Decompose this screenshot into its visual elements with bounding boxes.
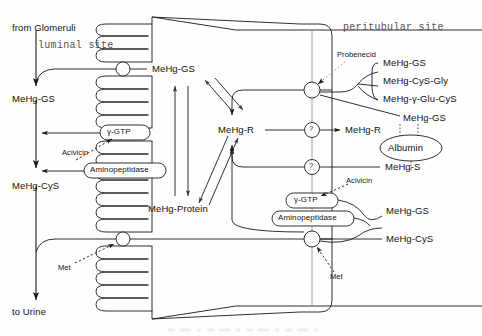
label-peritubular-acivicin: Acivicin bbox=[346, 176, 372, 185]
peritubular-recycle-loop-top bbox=[232, 90, 304, 115]
label-mehg-r-intracellular: MeHg-R bbox=[218, 124, 254, 135]
label-export-mehg-gs: MeHg-GS bbox=[386, 205, 429, 216]
label-luminal-met: Met bbox=[58, 263, 71, 272]
mehg-gs-to-mehg-r-arrow-pair bbox=[205, 78, 243, 112]
label-peritubular-met: Met bbox=[330, 272, 343, 281]
label-luminal-gtp: γ-GTP bbox=[107, 127, 131, 136]
label-mehg-r-export: MeHg-R bbox=[345, 124, 381, 135]
label-unknown-transporter-1: ? bbox=[309, 124, 313, 133]
label-mehg-s: MeHg-S bbox=[385, 161, 420, 172]
label-branch-mehg-cys-gly: MeHg-CyS-Gly bbox=[383, 75, 448, 86]
label-peritubular-site: peritubular site bbox=[343, 22, 444, 33]
label-luminal-aminopeptidase: Aminopeptidase bbox=[90, 165, 149, 174]
label-mehg-protein: MeHg-Protein bbox=[148, 203, 208, 214]
figure-canvas: from Glomeruli luminal site peritubular … bbox=[0, 0, 482, 336]
luminal-transporter-bottom[interactable] bbox=[55, 232, 332, 246]
label-branch-mehg-gs: MeHg-GS bbox=[383, 57, 426, 68]
peritubular-transporter-bottom[interactable] bbox=[304, 231, 320, 247]
luminal-transporter-top[interactable] bbox=[55, 62, 147, 76]
luminal-met-dotted-arrow bbox=[75, 244, 114, 263]
probenecid-dotted-arrow bbox=[318, 62, 345, 84]
label-peritubular-gtp: γ-GTP bbox=[294, 195, 318, 204]
label-peritubular-aminopeptidase: Aminopeptidase bbox=[278, 213, 337, 222]
label-export-mehg-cys: MeHg-CyS bbox=[386, 233, 433, 244]
peritubular-met-dotted-arrow bbox=[317, 247, 334, 272]
label-branch-mehg-glu-cys: MeHg-γ-Glu-CyS bbox=[383, 93, 457, 104]
label-from-glomeruli: from Glomeruli bbox=[12, 22, 76, 33]
label-luminal-site: luminal site bbox=[38, 40, 114, 51]
mehg-gs-mehg-protein-vertical-arrow-pair bbox=[175, 86, 188, 196]
label-luminal-mehg-cys: MeHg-CyS bbox=[12, 180, 59, 191]
peritubular-transporter-top[interactable] bbox=[304, 82, 332, 98]
label-unknown-transporter-2: ? bbox=[309, 161, 313, 170]
label-albumin-bound-mehg-gs: MeHg-GS bbox=[403, 112, 446, 123]
label-to-urine: to Urine bbox=[12, 306, 46, 317]
label-albumin: Albumin bbox=[388, 142, 423, 153]
label-filtered-mehg-gs: MeHg-GS bbox=[12, 93, 55, 104]
label-luminal-acivicin: Acivicin bbox=[62, 148, 88, 157]
label-probenecid: Probenecid bbox=[337, 50, 376, 59]
label-luminal-mehg-gs-top: MeHg-GS bbox=[152, 63, 195, 74]
